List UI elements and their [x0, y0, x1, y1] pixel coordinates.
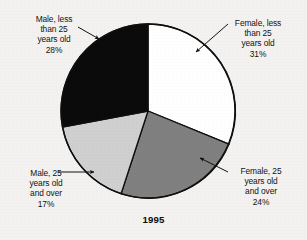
pie-label-female-25-and-over: Female, 25 years old and over 24%	[223, 166, 299, 207]
pie-label-male-under-25: Male, less than 25 years old 28%	[18, 14, 90, 55]
pie-label-male-25-and-over: Male, 25 years old and over 17%	[8, 168, 84, 209]
pie-label-female-under-25: Female, less than 25 years old 31%	[219, 18, 297, 59]
pie-chart-figure: Male, less than 25 years old 28% Female,…	[0, 0, 307, 240]
chart-title: 1995	[0, 214, 307, 225]
